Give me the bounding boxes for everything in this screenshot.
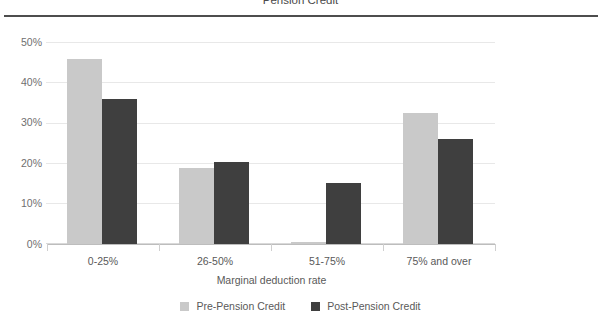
chart-title: Pension Credit xyxy=(0,0,601,7)
plot-area xyxy=(47,42,495,244)
legend-label: Pre-Pension Credit xyxy=(196,300,285,312)
bar-group-26-50 xyxy=(159,42,271,244)
x-tick-label-51-75: 51-75% xyxy=(271,255,383,267)
header-divider xyxy=(4,15,598,17)
y-tick-label-0: 0% xyxy=(4,239,42,249)
y-tick-label-40: 40% xyxy=(4,77,42,87)
x-tick-label-0-25: 0-25% xyxy=(47,255,159,267)
y-tick-label-10: 10% xyxy=(4,198,42,208)
x-axis-tick xyxy=(159,244,160,251)
legend-item-pre-pension-credit[interactable]: Pre-Pension Credit xyxy=(180,300,285,312)
legend-item-post-pension-credit[interactable]: Post-Pension Credit xyxy=(311,300,420,312)
x-axis-tick xyxy=(495,244,496,251)
x-axis-tick xyxy=(47,244,48,251)
bar-pre-pension-credit[interactable] xyxy=(179,168,214,244)
bar-group-75-and-over xyxy=(383,42,495,244)
bar-pre-pension-credit[interactable] xyxy=(403,113,438,244)
bar-post-pension-credit[interactable] xyxy=(102,99,137,244)
bar-pre-pension-credit[interactable] xyxy=(67,59,102,244)
x-tick-label-75-and-over: 75% and over xyxy=(383,255,495,267)
bar-group-51-75 xyxy=(271,42,383,244)
x-axis-title: Marginal deduction rate xyxy=(47,274,496,286)
y-tick-label-20: 20% xyxy=(4,158,42,168)
y-tick-label-50: 50% xyxy=(4,37,42,47)
bar-group-0-25 xyxy=(47,42,159,244)
bar-post-pension-credit[interactable] xyxy=(438,139,473,244)
bar-post-pension-credit[interactable] xyxy=(326,183,361,244)
x-axis-tick xyxy=(271,244,272,251)
chart-legend: Pre-Pension Credit Post-Pension Credit xyxy=(0,300,601,312)
legend-label: Post-Pension Credit xyxy=(327,300,420,312)
x-axis-tick xyxy=(383,244,384,251)
x-tick-label-26-50: 26-50% xyxy=(159,255,271,267)
y-tick-label-30: 30% xyxy=(4,117,42,127)
bar-post-pension-credit[interactable] xyxy=(214,162,249,244)
legend-swatch-icon xyxy=(180,302,189,311)
legend-swatch-icon xyxy=(311,302,320,311)
